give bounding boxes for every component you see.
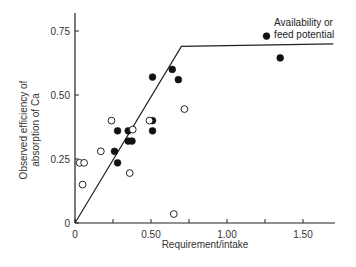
open-circle-marker xyxy=(79,181,86,188)
open-circle-marker xyxy=(129,126,136,133)
y-axis-title: Observed efficiency of absorption of Ca xyxy=(18,80,41,179)
x-axis-title: Requirement/intake xyxy=(162,239,249,250)
filled-circle-marker xyxy=(114,127,121,134)
data-points xyxy=(76,33,283,218)
open-circle-marker xyxy=(126,170,133,177)
open-circle-marker xyxy=(97,148,104,155)
annotation-text: feed potential xyxy=(274,29,334,40)
filled-circle-marker xyxy=(129,138,136,145)
x-tick-label: 0.50 xyxy=(141,229,161,240)
filled-circle-marker xyxy=(111,148,118,155)
y-tick-label: 0.25 xyxy=(51,154,71,165)
filled-circle-marker xyxy=(169,66,176,73)
filled-circle-marker xyxy=(175,76,182,83)
y-axis-title-line-1: Observed efficiency of xyxy=(18,80,29,179)
scatter-chart: 00.501.001.50 00.250.500.75 Availability… xyxy=(0,0,356,267)
annotation-text: Availability or xyxy=(274,17,333,28)
open-circle-marker xyxy=(181,106,188,113)
availability-line xyxy=(75,44,333,223)
y-tick-label: 0 xyxy=(64,218,70,229)
filled-circle-marker xyxy=(149,127,156,134)
filled-circle-marker xyxy=(114,159,121,166)
x-tick-label: 0 xyxy=(72,229,78,240)
y-tick-label: 0.75 xyxy=(51,26,71,37)
y-axis-title-line-2: absorption of Ca xyxy=(30,93,41,167)
annotations: Availability orfeed potential xyxy=(274,17,334,40)
open-circle-marker xyxy=(108,117,115,124)
filled-circle-marker xyxy=(263,33,270,40)
open-circle-marker xyxy=(170,211,177,218)
open-circle-marker xyxy=(146,117,153,124)
availability-polyline xyxy=(75,44,333,223)
filled-circle-marker xyxy=(149,74,156,81)
x-tick-label: 1.50 xyxy=(293,229,313,240)
open-circle-marker xyxy=(81,159,88,166)
y-tick-label: 0.50 xyxy=(51,90,71,101)
filled-circle-marker xyxy=(277,54,284,61)
x-axis-ticks: 00.501.001.50 xyxy=(72,219,313,240)
